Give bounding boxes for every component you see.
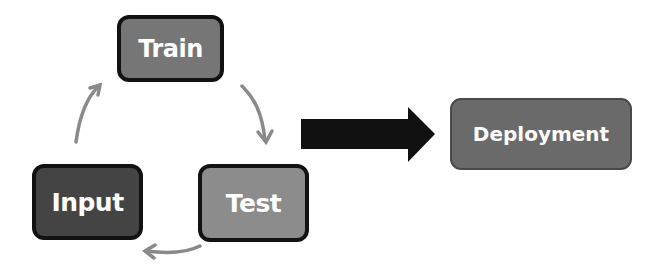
input-label: Input [51, 188, 123, 217]
test-label: Test [226, 189, 282, 218]
input-node: Input [32, 164, 143, 240]
arrow-input-to-train [76, 85, 100, 142]
arrow-train-to-test [242, 86, 272, 142]
block-arrow-to-deployment [301, 107, 435, 162]
test-node: Test [198, 164, 309, 242]
deployment-label: Deployment [473, 122, 609, 146]
train-label: Train [138, 35, 203, 63]
arrow-test-to-input [145, 245, 200, 258]
deployment-node: Deployment [450, 98, 632, 170]
train-node: Train [117, 15, 224, 82]
